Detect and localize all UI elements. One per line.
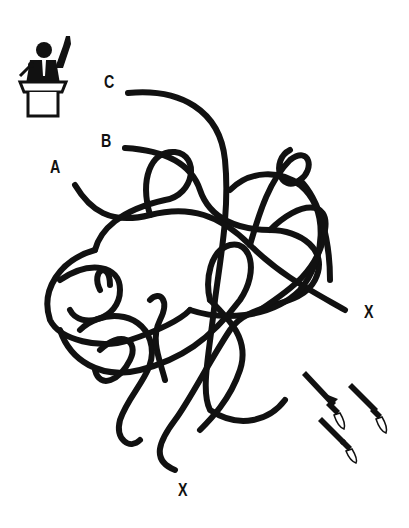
end-label-x-right: X: [364, 302, 374, 321]
maze-puzzle: C B A X X: [0, 0, 409, 528]
missiles-launch-icon: [300, 365, 396, 465]
start-label-b: B: [101, 131, 111, 150]
start-label-c: C: [104, 72, 114, 91]
end-label-x-bottom: X: [178, 480, 188, 499]
start-label-a: A: [50, 157, 60, 176]
